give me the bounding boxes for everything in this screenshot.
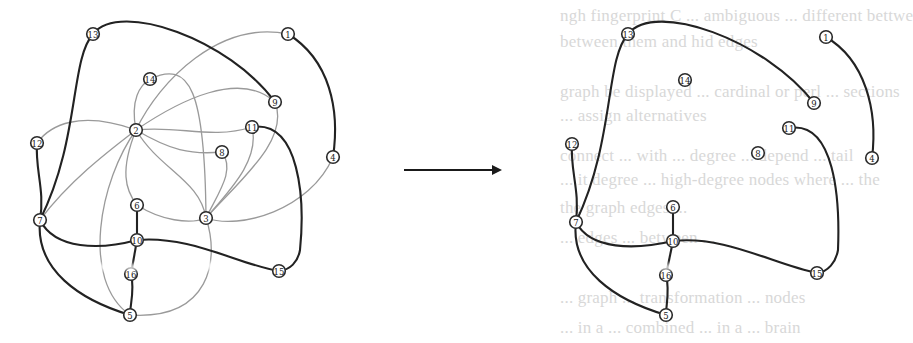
left-thin-edges (37, 32, 333, 315)
node-label: 10 (132, 236, 143, 246)
left-node-6: 6 (131, 199, 144, 212)
right-node-4: 4 (866, 152, 879, 165)
right-node-16: 16 (660, 269, 673, 282)
node-label: 13 (88, 30, 99, 40)
thin-edge (137, 205, 206, 221)
node-label: 11 (784, 124, 795, 134)
left-node-14: 14 (144, 73, 157, 86)
thick-edge (252, 127, 302, 271)
node-label: 6 (134, 201, 139, 211)
node-label: 1 (285, 30, 290, 40)
thick-edge (576, 34, 628, 222)
node-label: 1 (823, 33, 828, 43)
right-node-1: 1 (820, 31, 833, 44)
thin-edge (136, 130, 222, 153)
thick-edge (40, 220, 137, 246)
left-node-7: 7 (34, 214, 47, 227)
node-label: 4 (869, 154, 874, 164)
left-node-15: 15 (273, 265, 286, 278)
thick-edge (40, 34, 93, 220)
left-node-3: 3 (200, 212, 213, 225)
thick-edge (576, 222, 673, 246)
right-node-10: 10 (667, 235, 680, 248)
right-nodes: 131149111284671016155 (566, 28, 879, 322)
node-label: 9 (272, 98, 277, 108)
node-label: 11 (247, 123, 258, 133)
right-node-7: 7 (570, 216, 583, 229)
left-graph: 13114921112846731016155 (31, 22, 340, 322)
thick-edge (628, 22, 814, 103)
right-node-15: 15 (811, 267, 824, 280)
node-label: 8 (219, 148, 224, 158)
thick-edge (37, 143, 42, 220)
node-label: 15 (812, 269, 823, 279)
right-thick-edges (572, 22, 874, 315)
thin-edge (37, 120, 136, 143)
left-node-4: 4 (327, 151, 340, 164)
left-nodes: 13114921112846731016155 (31, 28, 340, 322)
left-node-2: 2 (130, 124, 143, 137)
node-label: 5 (127, 311, 132, 321)
node-label: 16 (126, 270, 137, 280)
thick-edge (288, 34, 335, 157)
node-label: 5 (663, 311, 668, 321)
left-node-13: 13 (87, 28, 100, 41)
right-node-9: 9 (808, 97, 821, 110)
thin-edge (136, 127, 252, 132)
node-label: 12 (32, 139, 43, 149)
right-node-11: 11 (783, 122, 796, 135)
thick-edge (826, 37, 873, 158)
left-node-12: 12 (31, 137, 44, 150)
node-label: 9 (811, 99, 816, 109)
left-node-1: 1 (282, 28, 295, 41)
node-label: 8 (755, 149, 760, 159)
left-node-10: 10 (131, 234, 144, 247)
thin-edge (136, 130, 206, 218)
node-label: 14 (680, 76, 691, 86)
node-label: 14 (145, 75, 156, 85)
node-label: 12 (567, 140, 578, 150)
left-node-8: 8 (216, 146, 229, 159)
node-label: 7 (37, 216, 42, 226)
left-node-11: 11 (246, 121, 259, 134)
thin-edge (100, 130, 136, 315)
left-node-5: 5 (124, 309, 137, 322)
node-label: 15 (274, 267, 285, 277)
right-node-6: 6 (667, 201, 680, 214)
node-label: 7 (573, 218, 578, 228)
thin-edge (206, 157, 333, 221)
left-node-9: 9 (269, 96, 282, 109)
node-label: 6 (670, 203, 675, 213)
thick-edge (572, 144, 577, 222)
node-label: 2 (133, 126, 138, 136)
node-label: 13 (623, 30, 634, 40)
node-label: 16 (661, 271, 672, 281)
right-node-5: 5 (660, 309, 673, 322)
right-node-13: 13 (622, 28, 635, 41)
thin-edge (206, 152, 227, 218)
scan-smudge (85, 262, 765, 270)
right-node-12: 12 (566, 138, 579, 151)
thick-edge (789, 127, 838, 273)
node-label: 4 (330, 153, 335, 163)
right-node-8: 8 (752, 147, 765, 160)
right-graph: 131149111284671016155 (566, 22, 879, 322)
node-label: 10 (668, 237, 679, 247)
node-label: 3 (203, 214, 208, 224)
thin-edge (126, 130, 137, 205)
right-node-14: 14 (679, 74, 692, 87)
thin-edge (40, 130, 136, 220)
thin-edge (206, 102, 278, 218)
